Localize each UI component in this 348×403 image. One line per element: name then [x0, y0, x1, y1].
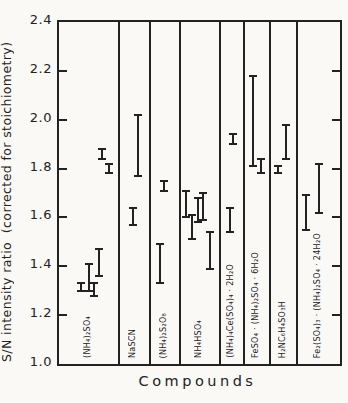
y-tick-label: 2.2 — [20, 61, 52, 76]
error-bar-top-cap — [188, 214, 196, 216]
error-bar-bottom-cap — [282, 158, 290, 160]
y-tick-label: 1.4 — [20, 256, 52, 271]
y-tick-label: 1.0 — [20, 354, 52, 369]
error-bar-bottom-cap — [95, 275, 103, 277]
error-bar-bottom-cap — [194, 221, 202, 223]
y-tick-mark — [332, 265, 340, 267]
error-bar-top-cap — [90, 282, 98, 284]
y-tick-mark — [332, 168, 340, 170]
error-bar-bottom-cap — [90, 295, 98, 297]
compound-label: NH₄HSO₄ — [194, 320, 203, 358]
y-tick-mark — [59, 70, 67, 72]
error-bar-top-cap — [274, 165, 282, 167]
error-bar-top-cap — [302, 194, 310, 196]
y-tick-label: 1.8 — [20, 159, 52, 174]
error-bar-bottom-cap — [302, 229, 310, 231]
plot-area: (NH₄)₂SO₄NaSCN(NH₄)₂S₂O₈NH₄HSO₄(NH₄)₄Ce(… — [57, 20, 342, 366]
error-bar-top-cap — [249, 75, 257, 77]
error-bar-top-cap — [156, 243, 164, 245]
error-bar-top-cap — [226, 207, 234, 209]
error-bar-bottom-cap — [274, 172, 282, 174]
panel-divider — [149, 22, 151, 364]
y-tick-mark — [59, 314, 67, 316]
error-bar-bottom-cap — [105, 172, 113, 174]
error-bar-stem — [88, 264, 90, 291]
y-tick-mark — [332, 216, 340, 218]
error-bar-stem — [202, 193, 204, 220]
y-tick-label: 2.4 — [20, 12, 52, 27]
panel-divider — [243, 22, 245, 364]
error-bar-stem — [185, 191, 187, 218]
error-bar-top-cap — [282, 124, 290, 126]
error-bar-bottom-cap — [249, 165, 257, 167]
error-bar-stem — [285, 125, 287, 159]
error-bar-bottom-cap — [98, 158, 106, 160]
y-tick-label: 1.2 — [20, 305, 52, 320]
error-bar-stem — [229, 208, 231, 232]
error-bar-stem — [252, 76, 254, 166]
error-bar-top-cap — [199, 192, 207, 194]
error-bar-bottom-cap — [156, 282, 164, 284]
error-bar-top-cap — [229, 133, 237, 135]
error-bar-bottom-cap — [199, 219, 207, 221]
y-tick-label: 2.0 — [20, 110, 52, 125]
figure: S/N intensity ratio (corrected for stoic… — [0, 0, 348, 403]
error-bar-stem — [305, 195, 307, 229]
error-bar-bottom-cap — [134, 175, 142, 177]
error-bar-top-cap — [206, 231, 214, 233]
compound-label: (NH₄)₂SO₄ — [83, 316, 92, 358]
panel-divider — [219, 22, 221, 364]
compound-label: FeSO₄ · (NH₄)₂SO₄ · 6H₂O — [251, 252, 260, 358]
error-bar-bottom-cap — [160, 190, 168, 192]
y-tick-mark — [332, 314, 340, 316]
error-bar-stem — [191, 215, 193, 239]
y-tick-mark — [59, 265, 67, 267]
y-tick-mark — [59, 119, 67, 121]
error-bar-stem — [98, 249, 100, 276]
error-bar-top-cap — [134, 114, 142, 116]
compound-label: NaSCN — [128, 329, 137, 358]
x-axis-title: Compounds — [57, 373, 338, 389]
error-bar-top-cap — [98, 148, 106, 150]
error-bar-bottom-cap — [257, 172, 265, 174]
error-bar-bottom-cap — [182, 216, 190, 218]
error-bar-top-cap — [129, 207, 137, 209]
error-bar-top-cap — [160, 180, 168, 182]
panel-divider — [179, 22, 181, 364]
compound-label: (NH₄)₄Ce(SO₄)₄ · 2H₂O — [226, 264, 235, 358]
y-tick-label: 1.6 — [20, 207, 52, 222]
error-bar-bottom-cap — [188, 238, 196, 240]
error-bar-stem — [318, 164, 320, 213]
error-bar-bottom-cap — [229, 143, 237, 145]
error-bar-stem — [132, 208, 134, 225]
error-bar-bottom-cap — [226, 231, 234, 233]
panel-divider — [269, 22, 271, 364]
y-tick-mark — [59, 216, 67, 218]
error-bar-top-cap — [194, 197, 202, 199]
panel-divider — [118, 22, 120, 364]
panel-divider — [296, 22, 298, 364]
error-bar-top-cap — [77, 282, 85, 284]
error-bar-bottom-cap — [129, 224, 137, 226]
error-bar-top-cap — [105, 163, 113, 165]
error-bar-top-cap — [95, 248, 103, 250]
compound-label: (NH₄)₂S₂O₈ — [159, 313, 168, 358]
error-bar-top-cap — [85, 263, 93, 265]
error-bar-bottom-cap — [315, 212, 323, 214]
error-bar-stem — [209, 232, 211, 269]
error-bar-top-cap — [315, 163, 323, 165]
error-bar-top-cap — [257, 158, 265, 160]
compound-label: Fe₂(SO₄)₃ · (NH₄)₂SO₄ · 24H₂O — [313, 233, 322, 358]
error-bar-stem — [260, 159, 262, 174]
y-tick-mark — [332, 70, 340, 72]
error-bar-top-cap — [182, 190, 190, 192]
y-tick-mark — [59, 168, 67, 170]
error-bar-stem — [159, 244, 161, 283]
y-tick-mark — [332, 119, 340, 121]
y-axis-title: S/N intensity ratio (corrected for stoic… — [0, 0, 21, 403]
compound-label: H₂NC₆H₄SO₃H — [278, 301, 287, 358]
error-bar-stem — [137, 115, 139, 176]
error-bar-bottom-cap — [206, 268, 214, 270]
